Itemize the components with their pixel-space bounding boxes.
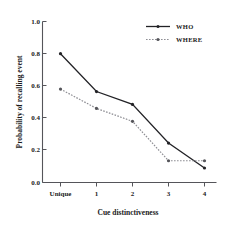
y-axis-title: Probability of recalling event — [15, 55, 24, 148]
y-tick-label-0-4: 0.4 — [31, 114, 40, 122]
data-point-who-2 — [131, 103, 134, 106]
x-axis-title: Cue distinctiveness — [97, 208, 158, 217]
legend-label-where: WHERE — [176, 36, 202, 43]
data-point-who-unique — [59, 52, 62, 55]
x-tick-marks — [61, 183, 205, 187]
legend-entry-where: WHERE — [146, 36, 202, 43]
y-tick-label-0-6: 0.6 — [31, 82, 40, 90]
y-tick-label-0-8: 0.8 — [31, 50, 40, 58]
legend-entry-who: WHO — [146, 23, 194, 30]
data-point-who-1 — [95, 90, 98, 93]
legend-swatch-who-marker — [157, 25, 160, 28]
y-tick-label-1-0: 1.0 — [31, 18, 40, 26]
data-point-where-2 — [131, 120, 134, 123]
series-where — [59, 88, 206, 163]
y-tick-marks — [43, 22, 47, 183]
data-point-where-3 — [167, 159, 170, 162]
data-point-who-4 — [203, 166, 206, 169]
data-point-where-4 — [203, 159, 206, 162]
series-line-where — [61, 89, 205, 161]
chart-figure: 1.0 0.8 0.6 0.4 0.2 0.0 Unique 1 2 3 4 C… — [0, 0, 231, 225]
data-point-who-3 — [167, 141, 170, 144]
chart-legend: WHO WHERE — [146, 23, 202, 43]
legend-swatch-where-marker — [156, 38, 159, 41]
data-point-where-unique — [59, 88, 62, 91]
x-tick-labels: Unique 1 2 3 4 — [50, 190, 207, 198]
x-tick-label-1: 1 — [95, 190, 99, 198]
line-chart: 1.0 0.8 0.6 0.4 0.2 0.0 Unique 1 2 3 4 C… — [0, 0, 231, 225]
legend-label-who: WHO — [176, 23, 194, 30]
series-who — [59, 52, 206, 170]
y-tick-labels: 1.0 0.8 0.6 0.4 0.2 0.0 — [31, 18, 40, 187]
data-point-where-1 — [95, 107, 98, 110]
y-tick-label-0-2: 0.2 — [31, 146, 40, 154]
x-tick-label-4: 4 — [203, 190, 207, 198]
y-tick-label-0-0: 0.0 — [31, 179, 40, 187]
x-tick-label-3: 3 — [167, 190, 171, 198]
data-series-layer — [59, 52, 206, 170]
x-tick-label-2: 2 — [131, 190, 135, 198]
x-tick-label-unique: Unique — [50, 190, 72, 198]
series-line-who — [61, 54, 205, 168]
